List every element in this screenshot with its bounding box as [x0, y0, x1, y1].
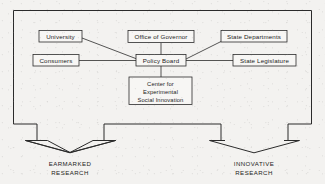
node-policy-board[interactable]: Policy Board	[136, 55, 186, 67]
center-label-line1: Center for	[147, 81, 174, 87]
right-arrow-head-barbs	[210, 141, 300, 153]
left-arrow-head-barbs	[26, 141, 116, 153]
center-label-line3: Social Innovation	[138, 97, 184, 103]
innovative-research-line2: RESEARCH	[235, 169, 272, 176]
consumers-label: Consumers	[40, 57, 73, 64]
university-label: University	[46, 33, 75, 40]
office-of-governor-label: Office of Governor	[134, 33, 187, 40]
policy-board-label: Policy Board	[143, 57, 180, 64]
earmarked-research-line1: EARMARKED	[49, 160, 92, 167]
frame-outline	[14, 11, 312, 125]
left-arrow-head	[26, 141, 116, 153]
node-office-of-governor[interactable]: Office of Governor	[128, 31, 194, 43]
state-legislature-label: State Legislature	[240, 57, 289, 64]
enclosing-frame	[14, 11, 312, 125]
innovative-research-line1: INNOVATIVE	[234, 160, 275, 167]
center-label-line2: Experimental	[143, 89, 178, 95]
state-departments-label: State Departments	[227, 33, 281, 40]
organizational-flow-diagram: EARMARKED RESEARCH INNOVATIVE RESEARCH U…	[0, 0, 325, 184]
node-consumers[interactable]: Consumers	[33, 55, 79, 67]
node-state-departments[interactable]: State Departments	[221, 31, 287, 43]
node-state-legislature[interactable]: State Legislature	[233, 55, 296, 67]
node-university[interactable]: University	[39, 31, 82, 43]
node-center-for-experimental-social-innovation[interactable]: Center for Experimental Social Innovatio…	[129, 77, 192, 105]
earmarked-research-line2: RESEARCH	[51, 169, 88, 176]
figure-canvas: EARMARKED RESEARCH INNOVATIVE RESEARCH U…	[0, 0, 325, 184]
earmarked-research-arrow: EARMARKED RESEARCH	[26, 124, 116, 176]
innovative-research-arrow: INNOVATIVE RESEARCH	[210, 124, 300, 176]
